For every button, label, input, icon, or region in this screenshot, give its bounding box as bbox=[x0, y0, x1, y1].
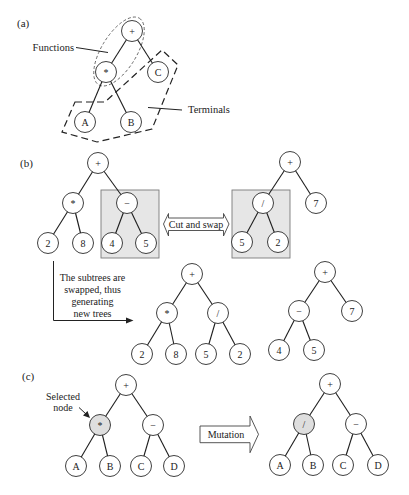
svg-text:2: 2 bbox=[46, 238, 51, 249]
tree-node: − bbox=[289, 301, 310, 322]
svg-text:+: + bbox=[287, 157, 293, 168]
selected-node-label: node bbox=[53, 402, 73, 413]
tree-node: 7 bbox=[306, 193, 327, 214]
caption-line: swapped, thus bbox=[64, 284, 121, 295]
svg-text:C: C bbox=[138, 461, 145, 472]
svg-text:4: 4 bbox=[277, 345, 282, 356]
svg-text:5: 5 bbox=[144, 238, 149, 249]
svg-text:/: / bbox=[262, 198, 265, 209]
svg-text:2: 2 bbox=[140, 349, 145, 360]
caption-line: The subtrees are bbox=[60, 272, 126, 283]
svg-text:7: 7 bbox=[314, 198, 319, 209]
tree-node: 5 bbox=[136, 233, 157, 254]
tree-offspring1: + * / 2 8 5 2 bbox=[132, 264, 251, 365]
tree-mutated: + / − A B C D bbox=[270, 374, 389, 476]
tree-node: D bbox=[368, 455, 389, 476]
svg-text:−: − bbox=[353, 419, 359, 430]
svg-text:B: B bbox=[107, 461, 114, 472]
svg-text:+: + bbox=[123, 380, 129, 391]
panel-a: (a) Functions Terminals + * C A B bbox=[17, 9, 230, 142]
arrowhead-icon bbox=[126, 318, 134, 324]
tree-node: 2 bbox=[38, 233, 59, 254]
tree-node: + bbox=[122, 21, 143, 42]
mutated-tree-node: / bbox=[294, 414, 315, 435]
caption-line: new trees bbox=[73, 308, 111, 319]
svg-text:D: D bbox=[374, 460, 381, 471]
svg-text:2: 2 bbox=[238, 349, 243, 360]
swap-result-arrow: The subtrees are swapped, thus generatin… bbox=[54, 261, 134, 324]
panel-b: (b) + * − 2 8 4 5 Cut and swap bbox=[20, 152, 363, 365]
tree-node: B bbox=[303, 455, 324, 476]
tree-node: C bbox=[131, 456, 152, 477]
svg-text:C: C bbox=[155, 67, 162, 78]
svg-text:4: 4 bbox=[110, 238, 115, 249]
selected-node-label: Selected bbox=[46, 391, 80, 402]
tree-node: − bbox=[143, 415, 164, 436]
svg-text:A: A bbox=[81, 117, 89, 128]
svg-text:B: B bbox=[310, 460, 317, 471]
functions-label: Functions bbox=[33, 42, 74, 53]
tree-node: 8 bbox=[73, 233, 94, 254]
svg-text:5: 5 bbox=[312, 345, 317, 356]
tree-node: C bbox=[333, 455, 354, 476]
tree-offspring2: + − 7 4 5 bbox=[269, 262, 363, 361]
selected-tree-node: * bbox=[90, 415, 111, 436]
panel-b-label: (b) bbox=[20, 157, 33, 170]
genetic-programming-diagram: (a) Functions Terminals + * C A B (b) bbox=[0, 0, 409, 495]
svg-text:D: D bbox=[170, 461, 177, 472]
svg-text:7: 7 bbox=[350, 306, 355, 317]
tree-node: A bbox=[66, 456, 87, 477]
functions-leader-line bbox=[76, 48, 108, 53]
tree-node: * bbox=[63, 193, 84, 214]
svg-text:−: − bbox=[124, 198, 130, 209]
selected-node-pointer bbox=[79, 408, 86, 415]
terminals-leader-line bbox=[148, 108, 182, 111]
caption-line: generating bbox=[71, 296, 113, 307]
mutation-arrow: Mutation bbox=[200, 416, 259, 453]
svg-text:8: 8 bbox=[81, 238, 86, 249]
tree-node: 8 bbox=[166, 344, 187, 365]
panel-c: (c) Selected node + * − A B C D Mutation bbox=[22, 370, 389, 477]
svg-text:/: / bbox=[217, 308, 220, 319]
terminals-label: Terminals bbox=[188, 104, 230, 115]
svg-text:A: A bbox=[72, 461, 80, 472]
tree-node: − bbox=[117, 193, 138, 214]
tree-node: + bbox=[182, 264, 203, 285]
tree-node: A bbox=[75, 112, 96, 133]
tree-a: + * C A B bbox=[75, 21, 169, 133]
tree-node: 4 bbox=[102, 233, 123, 254]
panel-c-label: (c) bbox=[22, 370, 35, 383]
svg-text:A: A bbox=[276, 460, 284, 471]
svg-text:+: + bbox=[327, 379, 333, 390]
tree-node: 2 bbox=[132, 344, 153, 365]
svg-text:+: + bbox=[129, 26, 135, 37]
svg-text:C: C bbox=[340, 460, 347, 471]
svg-text:+: + bbox=[322, 267, 328, 278]
tree-node: 5 bbox=[232, 232, 253, 253]
tree-node: + bbox=[280, 152, 301, 173]
tree-node: 5 bbox=[196, 344, 217, 365]
tree-node: 2 bbox=[230, 344, 251, 365]
svg-text:*: * bbox=[165, 308, 170, 319]
svg-text:/: / bbox=[303, 419, 306, 430]
tree-node: C bbox=[148, 62, 169, 83]
svg-text:2: 2 bbox=[276, 237, 281, 248]
svg-text:+: + bbox=[95, 158, 101, 169]
tree-original: + * − A B C D bbox=[66, 375, 185, 477]
tree-node: / bbox=[208, 303, 229, 324]
panel-a-label: (a) bbox=[17, 17, 30, 30]
tree-node: D bbox=[164, 456, 185, 477]
tree-node: / bbox=[253, 193, 274, 214]
tree-node: 2 bbox=[268, 232, 289, 253]
tree-node: B bbox=[121, 112, 142, 133]
cut-and-swap-arrow: Cut and swap bbox=[164, 214, 230, 237]
svg-text:−: − bbox=[150, 420, 156, 431]
mutation-label: Mutation bbox=[208, 429, 245, 440]
tree-node: + bbox=[88, 153, 109, 174]
svg-text:−: − bbox=[296, 306, 302, 317]
svg-text:*: * bbox=[71, 198, 76, 209]
svg-text:*: * bbox=[98, 420, 103, 431]
svg-text:8: 8 bbox=[174, 349, 179, 360]
tree-node: − bbox=[346, 414, 367, 435]
tree-node: 5 bbox=[304, 340, 325, 361]
